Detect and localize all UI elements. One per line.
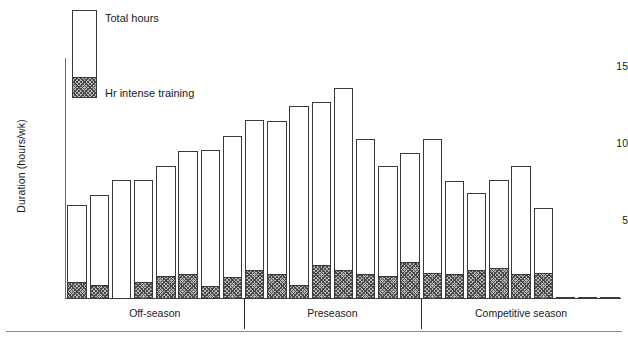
bar — [90, 195, 110, 299]
bar — [356, 139, 376, 298]
bar-intense-segment — [489, 268, 509, 298]
bar-chart: Duration (hours/wk) 15 10 5 Off-season P… — [0, 0, 628, 337]
bar — [245, 120, 265, 299]
section-label-off-season: Off-season — [65, 307, 245, 319]
legend-swatch-total — [72, 10, 97, 98]
bar-intense-segment — [445, 274, 465, 298]
bar-intense-segment — [156, 276, 176, 299]
bar — [178, 151, 198, 298]
section-label-competitive-season: Competitive season — [431, 307, 611, 319]
bar-intense-segment — [267, 274, 287, 298]
bar — [267, 121, 287, 298]
bar-intense-segment — [423, 273, 443, 299]
bar-intense-segment — [289, 285, 309, 299]
y-axis-title: Duration (hours/wk) — [15, 96, 27, 236]
bar-intense-segment — [312, 265, 332, 298]
bar — [67, 205, 87, 298]
bar — [134, 180, 154, 299]
bar-intense-segment — [467, 270, 487, 299]
bar-intense-segment — [334, 270, 354, 299]
bar — [289, 106, 309, 298]
bar-intense-segment — [534, 273, 554, 299]
bar-intense-segment — [378, 276, 398, 299]
footer-rule — [6, 331, 622, 332]
bar — [201, 150, 221, 299]
bar — [467, 193, 487, 298]
bar-intense-segment — [67, 282, 87, 299]
bar — [334, 88, 354, 298]
bar — [423, 139, 443, 298]
bar-intense-segment — [400, 262, 420, 298]
legend-swatch-intense — [72, 77, 97, 98]
bar — [378, 166, 398, 298]
bar — [534, 208, 554, 298]
bar-intense-segment — [223, 277, 243, 298]
bar — [223, 136, 243, 298]
bar — [400, 153, 420, 299]
bar — [112, 180, 132, 299]
bar-intense-segment — [90, 285, 110, 299]
x-axis-baseline — [66, 298, 621, 299]
bar — [312, 102, 332, 299]
bar-intense-segment — [245, 270, 265, 299]
bar — [511, 166, 531, 298]
bar-intense-segment — [201, 286, 221, 298]
bar-intense-segment — [134, 282, 154, 299]
bar-intense-segment — [178, 274, 198, 298]
bar — [156, 166, 176, 298]
bar-intense-segment — [511, 274, 531, 298]
bar — [489, 180, 509, 299]
bar-intense-segment — [356, 274, 376, 298]
bar — [445, 181, 465, 298]
section-label-preseason: Preseason — [242, 307, 422, 319]
legend-label-intense: Hr intense training — [105, 87, 194, 99]
legend-label-total: Total hours — [105, 12, 159, 24]
